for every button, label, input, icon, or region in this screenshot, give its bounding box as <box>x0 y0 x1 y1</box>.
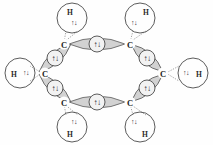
electron-pair-label: ↑↓ <box>144 54 152 63</box>
electron-pair-label: ↑↓ <box>94 40 102 49</box>
carbon-atom-top-left: C <box>61 40 67 50</box>
carbon-atom-bottom-left: C <box>61 98 67 108</box>
carbon-atom-top-right: C <box>127 40 133 50</box>
electron-pair-label: ↑↓ <box>52 54 60 63</box>
hydrogen-orbital-circle <box>5 58 35 88</box>
hydrogen-top-right: H ↑↓ <box>125 3 155 33</box>
hydrogen-label: H <box>196 70 202 79</box>
cc-bond-group: ↑↓ ↑↓ ↑↓ ↑↓ ↑↓ <box>36 36 167 110</box>
carbon-atom-left: C <box>42 69 48 79</box>
hydrogen-electron-pair: ↑↓ <box>131 118 137 126</box>
hydrogen-electron-pair: ↑↓ <box>71 19 77 27</box>
hydrogen-group: H ↑↓ H ↑↓ H ↑↓ H ↑↓ <box>5 3 208 142</box>
hydrogen-label: H <box>143 8 149 17</box>
hydrogen-orbital-circle <box>125 3 155 33</box>
hydrogen-electron-pair: ↑↓ <box>71 118 77 126</box>
carbon-atom-bottom-right: C <box>127 98 133 108</box>
hydrogen-orbital-circle <box>125 112 155 142</box>
electron-pair-label: ↑↓ <box>144 84 152 93</box>
hydrogen-label: H <box>67 130 73 139</box>
benzene-orbital-diagram: ↑↓ ↑↓ ↑↓ ↑↓ ↑↓ <box>0 0 213 145</box>
hydrogen-top-left: H ↑↓ <box>57 3 87 33</box>
hydrogen-bottom-left: H ↑↓ <box>57 112 87 142</box>
electron-pair-label: ↑↓ <box>94 98 102 107</box>
benzene-diagram-canvas: ↑↓ ↑↓ ↑↓ ↑↓ ↑↓ <box>0 0 213 145</box>
cc-bond-bottom: ↑↓ <box>69 94 125 110</box>
hydrogen-bottom-right: H ↑↓ <box>125 112 155 142</box>
hydrogen-left: H ↑↓ <box>5 58 35 88</box>
hydrogen-label: H <box>11 70 17 79</box>
hydrogen-label: H <box>67 8 73 17</box>
hydrogen-electron-pair: ↑↓ <box>183 69 189 77</box>
cc-bond-top: ↑↓ <box>69 36 125 52</box>
carbon-atom-right: C <box>160 69 166 79</box>
hydrogen-label: H <box>142 130 148 139</box>
electron-pair-label: ↑↓ <box>52 84 60 93</box>
hydrogen-electron-pair: ↑↓ <box>131 19 137 27</box>
hydrogen-electron-pair: ↑↓ <box>23 69 29 77</box>
hydrogen-right: H ↑↓ <box>178 58 208 88</box>
